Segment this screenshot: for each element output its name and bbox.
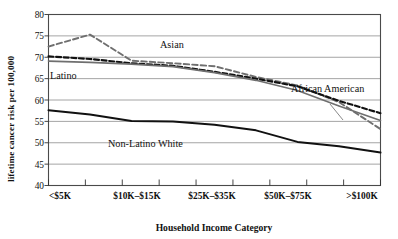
y-tick-label-55: 55 (35, 117, 45, 127)
series-label-asian: Asian (160, 39, 184, 50)
y-tick-label-80: 80 (35, 10, 45, 20)
y-axis-title: lifetime cancer risk per 100,000 (6, 56, 16, 182)
series-label-latino: Latino (50, 70, 77, 81)
x-tick-label-1: $10K–$15K (113, 191, 161, 201)
y-tick-label-65: 65 (35, 74, 45, 84)
x-tick-label-4: >$100K (346, 191, 378, 201)
x-tick-label-0: <$5K (49, 191, 72, 201)
line-chart: Asian Latino African American Non-Latino… (0, 0, 398, 239)
y-tick-label-40: 40 (35, 181, 45, 191)
x-axis-title: Household Income Category (156, 222, 273, 233)
x-tick-label-2: $25K–$35K (188, 191, 236, 201)
chart-figure: Asian Latino African American Non-Latino… (0, 0, 398, 239)
y-tick-label-45: 45 (35, 160, 45, 170)
y-tick-label-75: 75 (35, 31, 45, 41)
y-tick-label-60: 60 (35, 96, 45, 106)
y-tick-label-50: 50 (35, 138, 45, 148)
series-label-non-latino-white: Non-Latino White (108, 138, 183, 149)
y-tick-label-70: 70 (35, 53, 45, 63)
series-label-african-american: African American (291, 83, 364, 94)
x-tick-label-3: $50K–$75K (264, 191, 312, 201)
